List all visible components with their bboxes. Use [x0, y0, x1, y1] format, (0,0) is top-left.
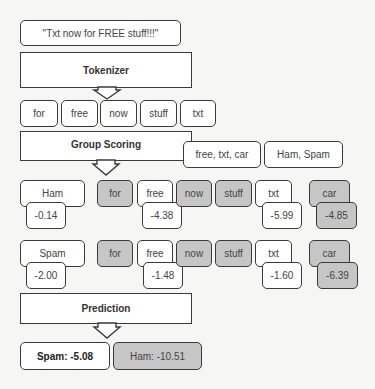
word-stuff-spam: stuff	[215, 240, 252, 267]
score-free-ham: -4.38	[142, 202, 182, 229]
vocab-group-box: free, txt, car	[183, 141, 261, 168]
score-car-spam: -6.39	[317, 262, 358, 289]
token-stuff: stuff	[140, 100, 177, 127]
token-now: now	[100, 100, 137, 127]
word-stuff-ham: stuff	[215, 180, 252, 207]
result-ham: Ham: -10.51	[113, 342, 202, 370]
prediction-stage: Prediction	[20, 293, 192, 324]
tokenizer-label: Tokenizer	[83, 65, 129, 76]
score-txt-ham: -5.99	[262, 202, 302, 229]
result-spam: Spam: -5.08	[20, 342, 110, 370]
word-now-ham: now	[176, 180, 212, 207]
group-scoring-stage: Group Scoring	[20, 131, 192, 161]
input-message-box: "Txt now for FREE stuff!!!"	[20, 20, 181, 46]
down-arrow-icon	[93, 160, 123, 176]
score-txt-spam: -1.60	[262, 262, 302, 289]
word-for-ham: for	[97, 180, 133, 207]
prediction-label: Prediction	[82, 303, 131, 314]
prior-score-ham: -0.14	[26, 202, 66, 229]
group-scoring-label: Group Scoring	[71, 139, 141, 150]
token-txt: txt	[180, 100, 216, 127]
down-arrow-icon	[94, 87, 124, 101]
prior-score-spam: -2.00	[26, 262, 66, 289]
token-for: for	[20, 100, 58, 127]
class-group-box: Ham, Spam	[264, 141, 343, 168]
word-for-spam: for	[97, 240, 133, 267]
score-car-ham: -4.85	[316, 202, 357, 229]
down-arrow-icon	[94, 323, 124, 339]
word-now-spam: now	[176, 240, 212, 267]
token-free: free	[61, 100, 98, 127]
tokenizer-stage: Tokenizer	[20, 52, 192, 88]
score-free-spam: -1.48	[143, 262, 183, 289]
